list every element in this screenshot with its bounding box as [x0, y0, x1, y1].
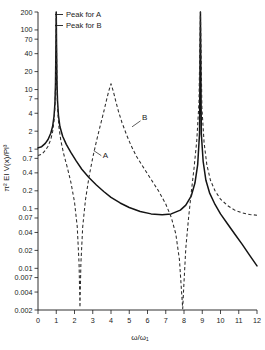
y-tick-label: 1 [29, 145, 33, 154]
x-tick-label: 1 [54, 316, 58, 325]
y-tick-label: 0.004 [15, 288, 33, 297]
curve-label-a-leader [94, 151, 102, 156]
y-tick-label: 0.7 [23, 154, 33, 163]
y-tick-label: 0.04 [19, 228, 33, 237]
y-tick-label: 20 [25, 67, 33, 76]
y-tick-label: 0.2 [23, 186, 33, 195]
y-tick-label: 10 [25, 85, 33, 94]
x-tick-label: 5 [127, 316, 131, 325]
curve-label-b: B [142, 113, 147, 122]
curve-b [38, 12, 257, 309]
x-tick-label: 11 [235, 316, 242, 325]
x-tick-label: 9 [200, 316, 204, 325]
y-axis-title: π² EI V(x)/Pl³ [2, 144, 11, 191]
y-tick-label: 200 [21, 8, 33, 17]
legend: Peak for A Peak for B [55, 10, 102, 30]
x-axis-ticks: 0123456789101112 [36, 310, 261, 325]
y-tick-label: 100 [21, 25, 33, 34]
y-tick-label: 0.02 [19, 246, 33, 255]
y-tick-label: 40 [25, 49, 33, 58]
x-tick-label: 2 [73, 316, 77, 325]
x-tick-label: 3 [91, 316, 95, 325]
y-tick-label: 7 [29, 94, 33, 103]
y-tick-label: 4 [29, 109, 33, 118]
curve-annotations: A B [94, 113, 148, 160]
y-axis-ticks: 0.0020.0040.0070.010.020.040.070.10.20.4… [15, 8, 39, 315]
y-tick-label: 2 [29, 127, 33, 136]
x-tick-label: 12 [253, 316, 261, 325]
y-tick-label: 0.002 [15, 306, 33, 315]
legend-label-peak-b: Peak for B [66, 21, 101, 30]
x-tick-label: 6 [146, 316, 150, 325]
y-tick-label: 70 [25, 35, 33, 44]
x-tick-label: 10 [217, 316, 225, 325]
x-tick-label: 8 [182, 316, 186, 325]
curve-a [38, 12, 257, 266]
y-tick-label: 0.4 [23, 168, 33, 177]
plot-svg: 0.0020.0040.0070.010.020.040.070.10.20.4… [0, 0, 265, 350]
x-tick-label: 7 [164, 316, 168, 325]
x-axis-title: ω/ω₁ [131, 333, 149, 342]
data-curves [38, 12, 257, 309]
curve-label-a: A [103, 151, 109, 160]
y-tick-label: 0.01 [19, 264, 33, 273]
y-tick-label: 0.007 [15, 273, 33, 282]
curve-label-b-leader [132, 121, 141, 127]
axes-group [38, 12, 257, 310]
x-tick-label: 0 [36, 316, 40, 325]
legend-label-peak-a: Peak for A [66, 10, 102, 19]
chart-figure: 0.0020.0040.0070.010.020.040.070.10.20.4… [0, 0, 265, 350]
y-tick-label: 0.1 [23, 204, 33, 213]
y-tick-label: 0.07 [19, 213, 33, 222]
x-tick-label: 4 [109, 316, 113, 325]
